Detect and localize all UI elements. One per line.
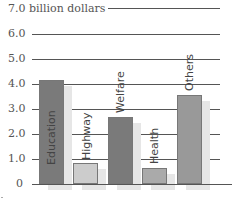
y-tick-5: 5.0 <box>8 53 26 65</box>
bar-highway <box>73 163 98 184</box>
bar-welfare <box>108 117 133 184</box>
bar-label-health: Health <box>148 128 161 164</box>
bar-label-education: Education <box>45 110 58 165</box>
y-tick-6: 6.0 <box>8 28 26 40</box>
y-tick-3: 3.0 <box>8 103 26 115</box>
gridline-6 <box>32 34 220 35</box>
y-tick-2: 2.0 <box>8 128 26 140</box>
x-axis-baseline <box>32 184 232 185</box>
y-axis-unit-label: 7.0 billion dollars <box>8 2 105 15</box>
bar-label-others: Others <box>183 54 196 91</box>
y-tick-1: 1.0 <box>8 153 26 165</box>
stray-mark <box>1 197 3 198</box>
bar-label-welfare: Welfare <box>114 71 127 113</box>
bar-health <box>142 168 167 184</box>
y-tick-4: 4.0 <box>8 78 26 90</box>
gridline-7 <box>108 8 220 9</box>
y-tick-0: 0 <box>16 178 23 190</box>
bar-others <box>177 95 202 184</box>
bar-label-highway: Highway <box>80 112 93 160</box>
